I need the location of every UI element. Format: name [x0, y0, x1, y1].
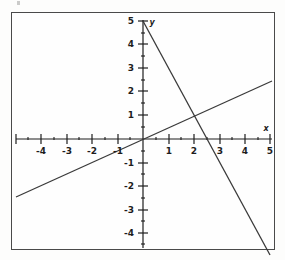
y-tick-label-5: 5 [128, 16, 134, 26]
y-axis-label: y [149, 18, 155, 27]
x-tick-label--2: -2 [87, 146, 97, 156]
y-tick-label-1: 1 [128, 110, 134, 120]
y-tick-label--1: -1 [124, 158, 134, 168]
x-tick-label--4: -4 [36, 146, 46, 156]
x-tick-label--1: -1 [113, 146, 123, 156]
series-descending-line [143, 21, 270, 255]
x-tick-label-1: 1 [166, 146, 172, 156]
coordinate-plane: -4 -3 -2 -1 1 2 3 4 5 5 4 3 2 1 -1 -2 -3… [0, 0, 285, 260]
x-tick-label-5: 5 [267, 146, 273, 156]
y-tick-label-4: 4 [128, 39, 134, 49]
x-tick-label-4: 4 [242, 146, 248, 156]
x-tick-label-3: 3 [217, 146, 223, 156]
y-tick-label--2: -2 [124, 181, 134, 191]
y-tick-label-2: 2 [128, 86, 134, 96]
y-tick-label-3: 3 [128, 63, 134, 73]
graph-figure: -4 -3 -2 -1 1 2 3 4 5 5 4 3 2 1 -1 -2 -3… [0, 0, 285, 260]
y-tick-label--4: -4 [124, 228, 134, 238]
x-tick-label-2: 2 [191, 146, 197, 156]
x-axis-label: x [262, 124, 269, 133]
y-tick-label--3: -3 [124, 205, 134, 215]
x-tick-label--3: -3 [62, 146, 72, 156]
